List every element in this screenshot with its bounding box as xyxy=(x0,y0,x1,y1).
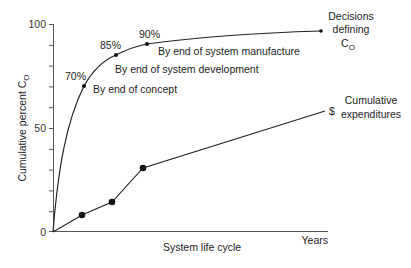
exp-point-2 xyxy=(109,199,116,206)
decisions-label-line1: Decisions xyxy=(328,10,374,22)
y-tick-0: 0 xyxy=(40,226,46,238)
expenditures-label-line1: Cumulative xyxy=(345,94,398,106)
y-ticks xyxy=(49,25,53,232)
point-70 xyxy=(82,84,86,88)
y-tick-100: 100 xyxy=(28,18,46,30)
point-end xyxy=(319,29,323,33)
y-axis-label: Cumulative percent CO xyxy=(16,74,31,181)
point-85 xyxy=(114,53,118,57)
annotation-concept: By end of concept xyxy=(93,83,177,95)
pct-90-label: 90% xyxy=(139,28,160,40)
x-axis-end-label: Years xyxy=(302,234,328,246)
x-axis-label: System life cycle xyxy=(163,241,241,253)
exp-point-3 xyxy=(140,165,147,172)
annotation-development: By end of system development xyxy=(115,63,259,75)
decisions-curve xyxy=(53,31,321,232)
expenditures-line xyxy=(53,111,325,232)
expenditure-points xyxy=(79,165,147,219)
expenditures-label-line2: expenditures xyxy=(341,108,401,120)
y-tick-50: 50 xyxy=(34,122,46,134)
decisions-label-line2: defining xyxy=(333,23,370,35)
pct-85-label: 85% xyxy=(100,39,121,51)
pct-70-label: 70% xyxy=(65,70,86,82)
dollar-marker: $ xyxy=(329,105,335,117)
exp-point-1 xyxy=(79,212,86,219)
point-90 xyxy=(145,42,149,46)
cost-commitment-chart: 100 50 0 Cumulative percent CO System li… xyxy=(0,0,411,268)
annotation-manufacture: By end of system manufacture xyxy=(158,45,300,57)
decisions-label-line3: CO xyxy=(341,37,355,52)
